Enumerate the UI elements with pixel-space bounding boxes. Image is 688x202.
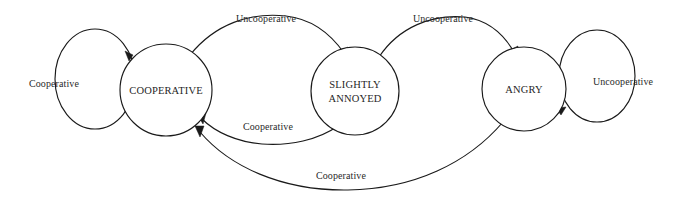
state-diagram-canvas: COOPERATIVE SLIGHTLY ANNOYED ANGRY Coope… — [0, 0, 688, 202]
angry-node-label: ANGRY — [505, 84, 543, 95]
edge-label-slightly-annoyed-to-cooperative: Cooperative — [243, 121, 293, 132]
cooperative-node-label: COOPERATIVE — [129, 85, 202, 96]
state-node-cooperative[interactable]: COOPERATIVE — [120, 44, 212, 136]
edge-label-cooperative-self-loop: Cooperative — [29, 78, 79, 89]
state-node-angry[interactable]: ANGRY — [482, 47, 566, 131]
edge-label-angry-to-cooperative: Cooperative — [316, 170, 366, 181]
state-node-slightly-annoyed[interactable]: SLIGHTLY ANNOYED — [311, 47, 399, 135]
edge-label-cooperative-to-slightly-annoyed: Uncooperative — [236, 13, 297, 24]
slightly-annoyed-node-shape[interactable] — [311, 47, 399, 135]
slightly-annoyed-node-label-line2: ANNOYED — [329, 93, 382, 104]
edge-label-angry-self-loop: Uncooperative — [593, 76, 654, 87]
slightly-annoyed-node-label-line1: SLIGHTLY — [329, 79, 381, 90]
fsm-diagram: COOPERATIVE SLIGHTLY ANNOYED ANGRY Coope… — [0, 0, 688, 202]
edge-label-slightly-annoyed-to-angry: Uncooperative — [413, 13, 474, 24]
